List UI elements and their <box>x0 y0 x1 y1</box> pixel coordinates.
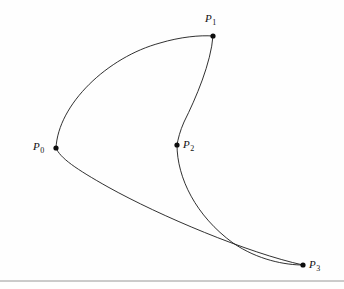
label-subscript: 1 <box>212 18 216 27</box>
label-subscript: 0 <box>40 146 44 155</box>
control-point-label-p2: P2 <box>183 139 194 153</box>
control-point-dot-p2[interactable] <box>174 142 179 147</box>
curve-segment-descent-p1-to-p2 <box>177 36 213 145</box>
curve-segment-descent-p2-to-p3 <box>177 145 303 265</box>
control-point-dot-p3[interactable] <box>300 262 305 267</box>
control-point-label-p1: P1 <box>205 13 216 27</box>
curve-segment-upper-arc-p0-to-p1 <box>56 36 213 148</box>
label-base-letter: P <box>183 138 190 150</box>
control-point-label-p0: P0 <box>33 141 44 155</box>
label-subscript: 3 <box>316 264 320 273</box>
control-point-dot-p1[interactable] <box>210 33 215 38</box>
control-point-label-p3: P3 <box>309 259 320 273</box>
control-point-dot-p0[interactable] <box>53 145 58 150</box>
label-base-letter: P <box>33 140 40 152</box>
control-point-dot-group <box>53 33 305 267</box>
curve-group <box>56 36 303 265</box>
figure-canvas <box>0 0 344 289</box>
bezier-figure: P0P1P2P3 <box>0 0 344 289</box>
label-subscript: 2 <box>190 144 194 153</box>
label-base-letter: P <box>205 12 212 24</box>
label-base-letter: P <box>309 258 316 270</box>
